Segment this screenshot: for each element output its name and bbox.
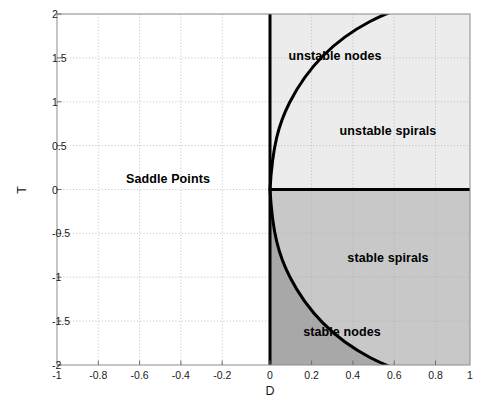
region-label-saddle-points: Saddle Points [126,173,210,186]
region-label-unstable-nodes: unstable nodes [288,50,381,63]
chart-figure: -1 -0.8 -0.6 -0.4 -0.2 0 0.2 0.4 0.6 0.8… [0,0,500,413]
xtick-label-6: 0.2 [304,370,319,381]
xtick-label-2: -0.6 [131,370,149,381]
xtick-label-8: 0.6 [387,370,402,381]
xtick-label-0: -1 [52,370,61,381]
region-label-unstable-spirals: unstable spirals [340,125,437,138]
region-label-stable-spirals: stable spirals [347,252,428,265]
xtick-label-9: 0.8 [428,370,443,381]
region-label-stable-nodes: stable nodes [303,326,381,339]
phase-plane-classification-plot [0,0,500,413]
x-axis-title: D [265,385,274,398]
xtick-label-10: 1 [467,370,473,381]
region-unstable [270,14,470,190]
y-axis-title: T [16,186,29,194]
xtick-label-7: 0.4 [346,370,361,381]
xtick-label-4: -0.2 [213,370,231,381]
xtick-label-5: 0 [267,370,273,381]
xtick-label-1: -0.8 [89,370,107,381]
xtick-label-3: -0.4 [172,370,190,381]
